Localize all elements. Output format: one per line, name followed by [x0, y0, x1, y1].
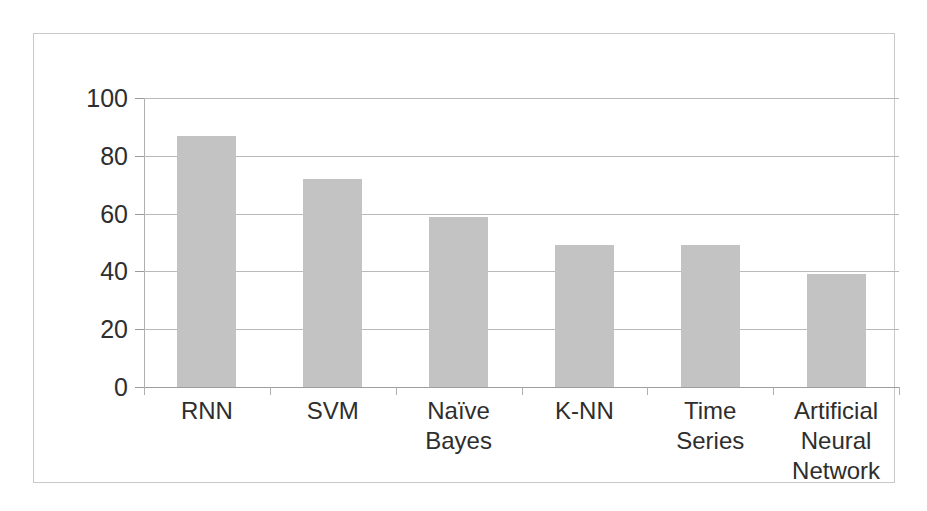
- gridline: [144, 214, 899, 215]
- category-label-line: Neural: [773, 426, 899, 456]
- category-label-line: Bayes: [396, 426, 522, 456]
- gridline: [144, 329, 899, 330]
- category-axis-tick-label: RNN: [144, 396, 270, 426]
- y-axis-tick: [135, 214, 144, 215]
- y-axis-tick: [135, 271, 144, 272]
- category-axis-tick-label: ArtificialNeuralNetwork: [773, 396, 899, 486]
- bar: [555, 245, 614, 387]
- category-axis-tick: [773, 387, 774, 395]
- gridline: [144, 271, 899, 272]
- y-axis-tick-label: 60: [66, 201, 128, 226]
- y-axis-tick-label: 20: [66, 317, 128, 342]
- category-axis-tick: [144, 387, 145, 395]
- category-axis-tick-label: Time Series: [647, 396, 773, 456]
- y-axis-tick-label: 40: [66, 259, 128, 284]
- category-label-line: K-NN: [522, 396, 648, 426]
- y-axis-tick-label: 100: [66, 86, 128, 111]
- category-axis-tick: [899, 387, 900, 395]
- category-label-line: SVM: [270, 396, 396, 426]
- y-axis-tick: [135, 156, 144, 157]
- category-label-line: Naïve: [396, 396, 522, 426]
- category-axis-tick-label: SVM: [270, 396, 396, 426]
- category-axis-tick: [522, 387, 523, 395]
- category-axis-labels: RNNSVMNaïveBayesK-NNTime SeriesArtificia…: [144, 396, 899, 511]
- category-label-line: Network: [773, 456, 899, 486]
- category-axis-tick: [396, 387, 397, 395]
- chart-frame: 020406080100 RNNSVMNaïveBayesK-NNTime Se…: [33, 33, 895, 483]
- bar: [177, 136, 236, 387]
- category-axis-tick: [270, 387, 271, 395]
- y-axis-tick: [135, 329, 144, 330]
- y-axis-tick-label: 80: [66, 143, 128, 168]
- bar: [303, 179, 362, 387]
- gridline: [144, 156, 899, 157]
- category-label-line: Artificial: [773, 396, 899, 426]
- gridline: [144, 98, 899, 99]
- category-label-line: RNN: [144, 396, 270, 426]
- category-axis-tick-label: NaïveBayes: [396, 396, 522, 456]
- bar: [429, 217, 488, 388]
- bar: [807, 274, 866, 387]
- category-label-line: Time Series: [647, 396, 773, 456]
- y-axis-tick-label: 0: [66, 375, 128, 400]
- category-axis-tick: [647, 387, 648, 395]
- y-axis-tick: [135, 387, 144, 388]
- plot-area: [144, 98, 899, 387]
- y-axis-tick: [135, 98, 144, 99]
- y-axis-labels: 020406080100: [66, 34, 128, 482]
- bar: [681, 245, 740, 387]
- category-axis-tick-label: K-NN: [522, 396, 648, 426]
